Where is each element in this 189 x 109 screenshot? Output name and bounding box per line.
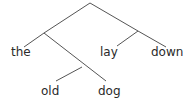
leaf-dog: dog bbox=[98, 84, 121, 98]
leaf-the: the bbox=[11, 45, 31, 59]
leaf-old: old bbox=[41, 84, 59, 98]
edge-np-old bbox=[56, 67, 82, 81]
edge-left-dog bbox=[44, 33, 106, 81]
edge-right-lay bbox=[117, 31, 138, 46]
edge-root-right bbox=[90, 3, 138, 31]
edge-root-left bbox=[44, 3, 90, 33]
leaf-down: down bbox=[151, 45, 183, 59]
leaf-lay: lay bbox=[100, 45, 118, 59]
